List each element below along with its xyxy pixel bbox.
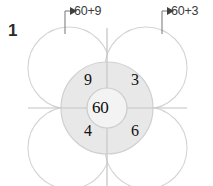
petal-value-bottom-right: 6 xyxy=(131,123,139,139)
petal-value-bottom-left: 4 xyxy=(84,123,92,139)
flower-number-bond-diagram xyxy=(0,0,213,186)
worksheet-canvas: 1 60+9 60+3 9 3 4 6 60 xyxy=(0,0,213,186)
center-total-value: 60 xyxy=(92,99,108,116)
petal-value-top-left: 9 xyxy=(84,72,92,88)
problem-number: 1 xyxy=(8,22,17,39)
callout-label-left: 60+9 xyxy=(74,5,101,18)
callout-label-right: 60+3 xyxy=(171,5,198,18)
petal-value-top-right: 3 xyxy=(131,72,139,88)
